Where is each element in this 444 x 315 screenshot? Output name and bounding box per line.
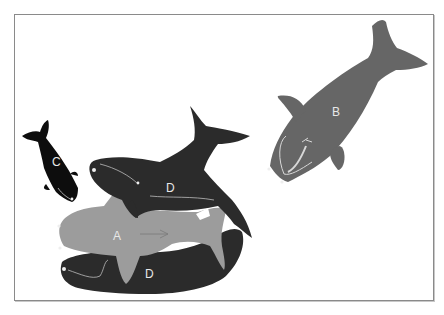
- whale-a-label: A: [113, 229, 121, 243]
- whale-c: C: [22, 120, 78, 202]
- whale-b-label: B: [332, 105, 340, 119]
- whale-b: B: [267, 20, 428, 184]
- whale-d-lower-label: D: [145, 267, 154, 281]
- whale-c-label: C: [52, 155, 61, 169]
- whale-diagram: B C D A D: [0, 0, 444, 315]
- whale-d-upper-label: D: [166, 181, 175, 195]
